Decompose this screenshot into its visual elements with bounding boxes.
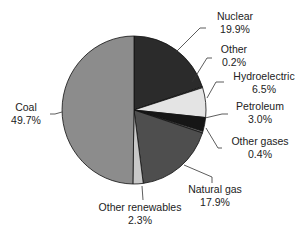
label-other-gases-name: Other gases: [224, 135, 296, 148]
label-other: Other 0.2%: [216, 43, 252, 69]
label-hydroelectric-pct: 6.5%: [228, 83, 300, 96]
label-coal: Coal 49.7%: [2, 101, 50, 127]
leader-line: [176, 28, 206, 52]
label-petroleum: Petroleum 3.0%: [230, 100, 290, 126]
label-natural-gas-name: Natural gas: [183, 183, 247, 196]
label-hydroelectric: Hydroelectric 6.5%: [228, 70, 300, 96]
pie-slice-coal: [62, 36, 134, 184]
leader-line: [142, 186, 143, 200]
label-coal-pct: 49.7%: [2, 114, 50, 127]
label-natural-gas-pct: 17.9%: [183, 196, 247, 209]
label-petroleum-pct: 3.0%: [230, 113, 290, 126]
label-nuclear-name: Nuclear: [205, 10, 265, 23]
label-other-gases-pct: 0.4%: [224, 148, 296, 161]
label-other-name: Other: [216, 43, 252, 56]
label-other-renewables-name: Other renewables: [92, 201, 188, 214]
label-other-gases: Other gases 0.4%: [224, 135, 296, 161]
label-hydroelectric-name: Hydroelectric: [228, 70, 300, 83]
leader-line: [50, 112, 62, 114]
label-petroleum-name: Petroleum: [230, 100, 290, 113]
leader-line: [184, 165, 212, 183]
leader-line: [207, 82, 224, 98]
label-nuclear: Nuclear 19.9%: [205, 10, 265, 36]
leader-line: [206, 128, 222, 148]
label-natural-gas: Natural gas 17.9%: [183, 183, 247, 209]
label-other-renewables-pct: 2.3%: [92, 214, 188, 227]
label-other-renewables: Other renewables 2.3%: [92, 201, 188, 227]
leader-line: [205, 114, 228, 118]
label-other-pct: 0.2%: [216, 56, 252, 69]
label-nuclear-pct: 19.9%: [205, 23, 265, 36]
label-coal-name: Coal: [2, 101, 50, 114]
